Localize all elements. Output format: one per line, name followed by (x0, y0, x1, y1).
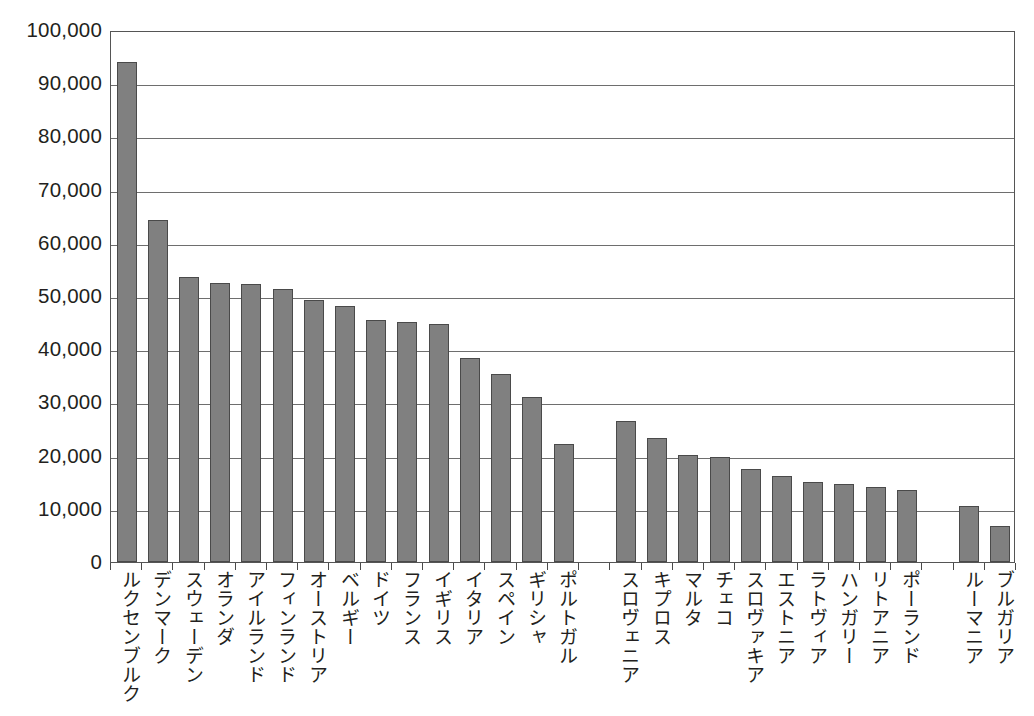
x-axis-category-label: ハンガリー (831, 570, 857, 665)
y-axis-tick-label: 90,000 (0, 73, 102, 93)
bar (554, 444, 574, 562)
bar (148, 220, 168, 562)
x-axis-category-label: マルタ (675, 570, 701, 627)
x-axis-category-label: ルクセンブルク (114, 570, 140, 703)
x-axis-tick (859, 563, 860, 570)
x-axis-tick (516, 563, 517, 570)
x-axis-tick (953, 563, 954, 570)
bar (460, 358, 480, 562)
x-axis-tick (797, 563, 798, 570)
x-axis-tick (328, 563, 329, 570)
bar (429, 324, 449, 562)
x-axis-tick (110, 563, 111, 570)
x-axis-tick (641, 563, 642, 570)
bar (522, 397, 542, 562)
y-axis-tick-label: 80,000 (0, 126, 102, 146)
x-axis-tick (547, 563, 548, 570)
bar (210, 283, 230, 562)
y-axis-tick-label: 50,000 (0, 286, 102, 306)
bar (710, 457, 730, 562)
x-axis-tick (266, 563, 267, 570)
bar (959, 506, 979, 562)
bar-chart: 100,00090,00080,00070,00060,00050,00040,… (0, 0, 1034, 716)
bar (491, 374, 511, 562)
bar (741, 469, 761, 562)
bar (335, 306, 355, 562)
x-axis-tick (890, 563, 891, 570)
bar (616, 421, 636, 563)
x-axis-tick (453, 563, 454, 570)
x-axis-category-label: エストニア (769, 570, 795, 665)
bar (117, 62, 137, 562)
x-axis-tick (422, 563, 423, 570)
bar (772, 476, 792, 562)
x-axis-category-label: ベルギー (332, 570, 358, 646)
y-axis-tick-label: 70,000 (0, 180, 102, 200)
x-axis-tick (578, 563, 579, 570)
bar (834, 484, 854, 562)
x-axis-category-label: ドイツ (363, 570, 389, 627)
y-axis-tick-label: 40,000 (0, 339, 102, 359)
x-axis-category-label: フランス (394, 570, 420, 646)
y-axis-tick-label: 20,000 (0, 446, 102, 466)
x-axis-category-label: ポーランド (894, 570, 920, 665)
bar (304, 300, 324, 562)
x-axis-tick (391, 563, 392, 570)
x-axis-tick (672, 563, 673, 570)
x-axis-tick (360, 563, 361, 570)
bar-group (111, 32, 1014, 562)
x-axis-tick (734, 563, 735, 570)
x-axis-tick (1015, 563, 1016, 570)
x-axis-category-label: イタリア (457, 570, 483, 646)
bar (647, 438, 667, 562)
bar (366, 320, 386, 562)
bar (897, 490, 917, 562)
x-axis-category-label: スペイン (488, 570, 514, 646)
x-axis-tick (141, 563, 142, 570)
bar (179, 277, 199, 562)
x-axis-tick (984, 563, 985, 570)
x-axis-category-label: オーストリア (301, 570, 327, 684)
x-axis-category-label: ポルトガル (551, 570, 577, 665)
x-axis-category-label: ギリシャ (519, 570, 545, 646)
x-axis-tick (204, 563, 205, 570)
bar (803, 482, 823, 562)
x-axis-tick (297, 563, 298, 570)
y-axis-tick-label: 30,000 (0, 392, 102, 412)
y-axis-tick-label: 100,000 (0, 20, 102, 40)
bar (678, 455, 698, 562)
x-axis-tick (484, 563, 485, 570)
plot-area (110, 31, 1015, 563)
x-axis-category-label: イギリス (426, 570, 452, 646)
x-axis-category-label: ルーマニア (956, 570, 982, 665)
x-axis-tick (235, 563, 236, 570)
x-axis-category-label: スウェーデン (176, 570, 202, 684)
x-axis-category-label: ラトヴィア (800, 570, 826, 665)
bar (397, 322, 417, 562)
x-axis-tick (765, 563, 766, 570)
bar (990, 526, 1010, 562)
x-axis-tick (609, 563, 610, 570)
y-axis-label-group: 100,00090,00080,00070,00060,00050,00040,… (0, 0, 102, 716)
x-axis-tick (703, 563, 704, 570)
x-axis-category-label: フィンランド (270, 570, 296, 684)
y-axis-tick-label: 0 (0, 552, 102, 572)
x-axis-tick (828, 563, 829, 570)
x-axis-category-label: アイルランド (238, 570, 264, 684)
x-axis-category-label: デンマーク (145, 570, 171, 665)
y-axis-tick-label: 10,000 (0, 499, 102, 519)
x-axis-tick (172, 563, 173, 570)
x-axis-category-label: オランダ (207, 570, 233, 646)
x-axis-tick (921, 563, 922, 570)
bar (241, 284, 261, 562)
x-axis-category-label: スロヴァキア (738, 570, 764, 684)
x-axis-category-label: スロヴェニア (613, 570, 639, 684)
x-axis-label-group: ルクセンブルクデンマークスウェーデンオランダアイルランドフィンランドオーストリア… (110, 570, 1015, 716)
y-axis-tick-label: 60,000 (0, 233, 102, 253)
bar (273, 289, 293, 562)
bar (866, 487, 886, 562)
x-axis-category-label: リトアニア (863, 570, 889, 665)
x-axis-category-label: ブルガリア (987, 570, 1013, 665)
x-axis-category-label: チェコ (707, 570, 733, 627)
x-axis-category-label: キプロス (644, 570, 670, 646)
